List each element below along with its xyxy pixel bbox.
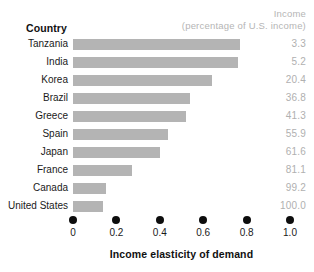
bar-track <box>73 147 290 158</box>
elasticity-bar <box>73 147 160 158</box>
table-row: France81.1 <box>0 162 314 180</box>
tick-label: 1.0 <box>274 227 306 238</box>
table-row: Canada99.2 <box>0 180 314 198</box>
income-value: 99.2 <box>286 182 306 193</box>
elasticity-bar <box>73 201 103 212</box>
bar-track <box>73 183 290 194</box>
country-column-header: Country <box>26 22 67 34</box>
tick-dot-icon <box>286 216 294 224</box>
elasticity-bar <box>73 111 186 122</box>
table-row: Spain55.9 <box>0 126 314 144</box>
table-row: United States100.0 <box>0 198 314 216</box>
income-column-header-line2: (percentage of U.S. income) <box>182 20 306 31</box>
elasticity-bar <box>73 165 132 176</box>
income-column-header-line1: Income <box>274 8 306 19</box>
country-label: Spain <box>0 128 68 139</box>
country-label: United States <box>0 200 68 211</box>
bar-track <box>73 93 290 104</box>
country-label: Tanzania <box>0 38 68 49</box>
elasticity-bar <box>73 57 238 68</box>
elasticity-bar <box>73 93 190 104</box>
elasticity-bar <box>73 183 106 194</box>
income-value: 41.3 <box>286 110 306 121</box>
tick-dot-icon <box>243 216 251 224</box>
tick-label: 0 <box>57 227 89 238</box>
table-row: Brazil36.8 <box>0 90 314 108</box>
bar-track <box>73 75 290 86</box>
chart-header: Country Income (percentage of U.S. incom… <box>0 6 314 36</box>
elasticity-bar <box>73 75 212 86</box>
country-label: Greece <box>0 110 68 121</box>
country-label: Japan <box>0 146 68 157</box>
income-value: 36.8 <box>286 92 306 103</box>
tick-dot-icon <box>69 216 77 224</box>
tick-dot-icon <box>156 216 164 224</box>
x-axis-title: Income elasticity of demand <box>73 248 290 260</box>
table-row: Greece41.3 <box>0 108 314 126</box>
tick-label: 0.2 <box>100 227 132 238</box>
country-label: France <box>0 164 68 175</box>
tick-label: 0.6 <box>187 227 219 238</box>
elasticity-bar <box>73 129 168 140</box>
country-label: India <box>0 56 68 67</box>
country-label: Brazil <box>0 92 68 103</box>
tick-label: 0.8 <box>231 227 263 238</box>
income-elasticity-chart: Country Income (percentage of U.S. incom… <box>0 0 314 272</box>
tick-dot-icon <box>112 216 120 224</box>
income-value: 3.3 <box>291 38 306 49</box>
bar-track <box>73 201 290 212</box>
bar-track <box>73 165 290 176</box>
chart-rows: Tanzania3.3India5.2Korea20.4Brazil36.8Gr… <box>0 36 314 216</box>
country-label: Korea <box>0 74 68 85</box>
income-value: 100.0 <box>280 200 306 211</box>
table-row: Korea20.4 <box>0 72 314 90</box>
income-value: 81.1 <box>286 164 306 175</box>
tick-label: 0.4 <box>144 227 176 238</box>
bar-track <box>73 111 290 122</box>
table-row: India5.2 <box>0 54 314 72</box>
income-value: 20.4 <box>286 74 306 85</box>
country-label: Canada <box>0 182 68 193</box>
bar-track <box>73 129 290 140</box>
income-value: 55.9 <box>286 128 306 139</box>
tick-dot-icon <box>199 216 207 224</box>
income-value: 61.6 <box>286 146 306 157</box>
table-row: Tanzania3.3 <box>0 36 314 54</box>
bar-track <box>73 57 290 68</box>
bar-track <box>73 39 290 50</box>
table-row: Japan61.6 <box>0 144 314 162</box>
income-value: 5.2 <box>291 56 306 67</box>
elasticity-bar <box>73 39 240 50</box>
